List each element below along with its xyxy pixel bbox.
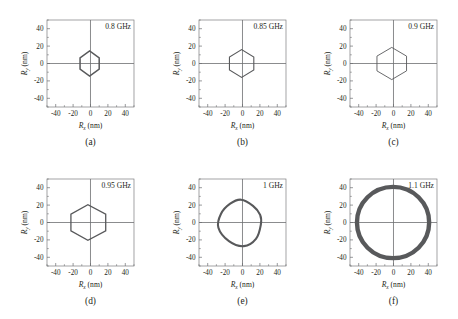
frequency-label: 0.85 GHz [254, 22, 284, 31]
x-axis-title: Rx (nm) [381, 280, 406, 290]
x-tick-label: 0 [392, 110, 396, 118]
x-tick-label: 20 [256, 269, 264, 277]
x-tick-label: 0 [392, 269, 396, 277]
y-tick-label: 20 [188, 43, 196, 51]
y-tick-label: -20 [186, 77, 196, 85]
x-axis-title: Rx (nm) [230, 280, 255, 290]
y-tick-label: 20 [339, 202, 347, 210]
y-tick-label: 20 [36, 43, 44, 51]
panel-letter: (e) [237, 296, 247, 307]
x-axis-title: Rx (nm) [230, 121, 255, 131]
y-tick-label: -20 [34, 77, 44, 85]
y-tick-label: 40 [188, 25, 196, 33]
x-tick-label: -20 [220, 269, 230, 277]
y-tick-label: -40 [34, 254, 44, 262]
figure-panel-grid: -40-40-20-2000202040400.8 GHzRx (nm)Ry (… [0, 0, 458, 319]
y-tick-label: -40 [34, 95, 44, 103]
y-tick-label: 40 [339, 184, 347, 192]
x-tick-label: 0 [241, 110, 245, 118]
subplot-a: -40-40-20-2000202040400.8 GHzRx (nm)Ry (… [0, 0, 153, 160]
panel-letter: (b) [237, 137, 248, 148]
y-axis-title: Ry (nm) [172, 51, 182, 76]
x-tick-label: 20 [407, 269, 415, 277]
y-tick-label: 0 [40, 60, 44, 68]
x-tick-label: -20 [68, 110, 78, 118]
y-axis-title: Ry (nm) [172, 210, 182, 235]
y-tick-label: 40 [36, 25, 44, 33]
x-tick-label: -20 [220, 110, 230, 118]
y-axis-title: Ry (nm) [20, 210, 30, 235]
y-tick-label: -20 [337, 77, 347, 85]
x-axis-title: Rx (nm) [78, 280, 103, 290]
x-tick-label: 20 [256, 110, 264, 118]
y-tick-label: 0 [343, 60, 347, 68]
y-axis-title: Ry (nm) [20, 51, 30, 76]
x-tick-label: 0 [89, 269, 93, 277]
panel-letter: (f) [389, 296, 398, 307]
x-tick-label: 40 [274, 110, 282, 118]
y-axis-title: Ry (nm) [323, 51, 333, 76]
frequency-label: 1.1 GHz [408, 181, 434, 190]
x-tick-label: 20 [104, 269, 112, 277]
x-tick-label: 40 [122, 110, 130, 118]
y-tick-label: 40 [339, 25, 347, 33]
y-tick-label: 20 [188, 202, 196, 210]
x-tick-label: 0 [89, 110, 93, 118]
x-tick-label: 40 [425, 269, 433, 277]
y-tick-label: 20 [36, 202, 44, 210]
panel-letter: (a) [85, 137, 95, 148]
y-tick-label: 40 [188, 184, 196, 192]
y-tick-label: -40 [186, 95, 196, 103]
frequency-label: 0.95 GHz [102, 181, 132, 190]
panel-letter: (d) [85, 296, 96, 307]
x-tick-label: -20 [371, 110, 381, 118]
x-tick-label: -40 [51, 110, 61, 118]
frequency-label: 0.8 GHz [105, 22, 131, 31]
y-tick-label: -20 [186, 236, 196, 244]
y-tick-label: 0 [192, 60, 196, 68]
subplot-e: -40-40-20-2000202040401 GHzRx (nm)Ry (nm… [152, 159, 305, 319]
y-tick-label: 0 [192, 219, 196, 227]
y-tick-label: -20 [337, 236, 347, 244]
x-tick-label: -40 [354, 269, 364, 277]
x-tick-label: -20 [68, 269, 78, 277]
subplot-b: -40-40-20-2000202040400.85 GHzRx (nm)Ry … [152, 0, 305, 160]
x-tick-label: 0 [241, 269, 245, 277]
x-tick-label: -40 [354, 110, 364, 118]
y-tick-label: 0 [343, 219, 347, 227]
frequency-label: 1 GHz [263, 181, 284, 190]
y-tick-label: -20 [34, 236, 44, 244]
trajectory-curve [218, 200, 261, 246]
y-axis-title: Ry (nm) [323, 210, 333, 235]
x-tick-label: 20 [104, 110, 112, 118]
x-tick-label: -40 [51, 269, 61, 277]
x-tick-label: -40 [203, 110, 213, 118]
subplot-d: -40-40-20-2000202040400.95 GHzRx (nm)Ry … [0, 159, 153, 319]
x-tick-label: 40 [274, 269, 282, 277]
y-tick-label: 20 [339, 43, 347, 51]
y-tick-label: -40 [337, 254, 347, 262]
frequency-label: 0.9 GHz [408, 22, 434, 31]
panel-letter: (c) [388, 137, 398, 148]
x-tick-label: 40 [122, 269, 130, 277]
subplot-f: -40-40-20-2000202040401.1 GHzRx (nm)Ry (… [303, 159, 456, 319]
x-axis-title: Rx (nm) [78, 121, 103, 131]
x-axis-title: Rx (nm) [381, 121, 406, 131]
x-tick-label: -40 [203, 269, 213, 277]
y-tick-label: 0 [40, 219, 44, 227]
subplot-c: -40-40-20-2000202040400.9 GHzRx (nm)Ry (… [303, 0, 456, 160]
y-tick-label: -40 [186, 254, 196, 262]
x-tick-label: -20 [371, 269, 381, 277]
x-tick-label: 40 [425, 110, 433, 118]
x-tick-label: 20 [407, 110, 415, 118]
y-tick-label: 40 [36, 184, 44, 192]
y-tick-label: -40 [337, 95, 347, 103]
